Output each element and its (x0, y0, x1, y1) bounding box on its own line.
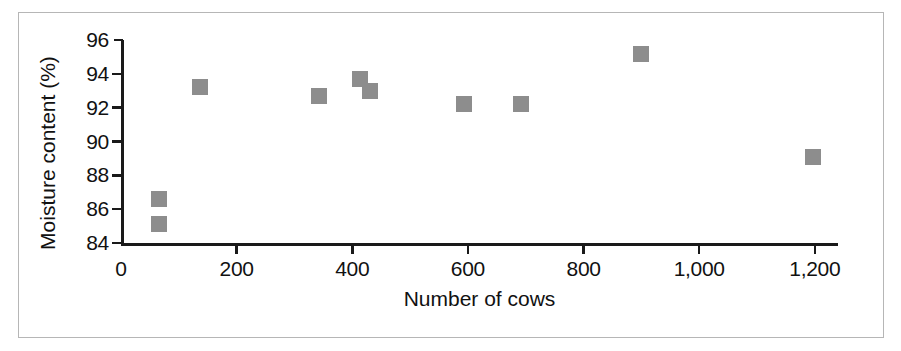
data-point (513, 96, 529, 112)
x-tick-800 (582, 243, 585, 254)
x-tick-200 (235, 243, 238, 254)
y-tick-84 (112, 242, 123, 245)
data-point (311, 88, 327, 104)
x-tick-1000 (698, 243, 701, 254)
data-point (192, 79, 208, 95)
figure-container: 84868890929496 02004006008001,0001,200 M… (0, 0, 901, 351)
x-tick-label-200: 200 (220, 258, 254, 280)
scatter-plot: 84868890929496 02004006008001,0001,200 M… (0, 0, 901, 351)
data-point (151, 191, 167, 207)
y-tick-94 (112, 73, 123, 76)
y-tick-label-90: 90 (67, 131, 109, 152)
y-tick-label-92: 92 (67, 97, 109, 118)
y-tick-label-96: 96 (67, 29, 109, 50)
x-tick-label-0: 0 (115, 258, 126, 280)
data-point (456, 96, 472, 112)
x-tick-1200 (814, 243, 817, 254)
x-tick-400 (351, 243, 354, 254)
y-tick-96 (114, 39, 123, 42)
y-tick-label-88: 88 (67, 164, 109, 185)
x-tick-600 (467, 243, 470, 254)
x-axis-title: Number of cows (121, 288, 838, 310)
data-point (633, 46, 649, 62)
y-tick-86 (112, 208, 123, 211)
y-tick-label-84: 84 (67, 232, 109, 253)
x-tick-label-1200: 1,200 (789, 258, 840, 280)
y-tick-90 (112, 140, 123, 143)
data-point (151, 216, 167, 232)
data-point (362, 83, 378, 99)
x-tick-label-1000: 1,000 (674, 258, 725, 280)
x-tick-label-800: 800 (567, 258, 601, 280)
data-point (805, 149, 821, 165)
x-axis-line (121, 243, 838, 246)
y-tick-label-86: 86 (67, 198, 109, 219)
x-tick-label-600: 600 (451, 258, 485, 280)
y-tick-label-94: 94 (67, 63, 109, 84)
x-tick-label-400: 400 (335, 258, 369, 280)
y-tick-92 (112, 106, 123, 109)
y-axis-title: Moisture content (%) (37, 33, 59, 273)
y-tick-88 (112, 174, 123, 177)
